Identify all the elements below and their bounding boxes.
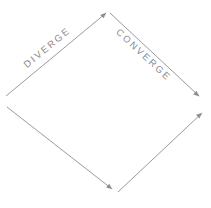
lower-left-edge-arrow bbox=[7, 107, 112, 189]
diagram-canvas bbox=[0, 0, 211, 208]
upper-right-edge-arrow bbox=[110, 13, 200, 97]
lower-right-edge-line bbox=[118, 115, 200, 192]
lower-right-edge-arrow bbox=[118, 113, 202, 192]
upper-right-edge-line bbox=[110, 13, 197, 94]
upper-left-edge-arrow bbox=[6, 13, 106, 96]
diverge-converge-diagram: DIVERGE CONVERGE bbox=[0, 0, 211, 208]
lower-left-edge-line bbox=[7, 107, 110, 187]
upper-left-edge-line bbox=[6, 15, 104, 96]
